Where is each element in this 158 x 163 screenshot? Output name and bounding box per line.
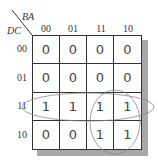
row-header: 01 bbox=[14, 72, 30, 83]
kmap-cell: 0 bbox=[60, 36, 87, 64]
kmap-cell: 1 bbox=[114, 93, 141, 121]
kmap-cell: 0 bbox=[87, 64, 114, 92]
kmap-cell: 1 bbox=[114, 121, 141, 149]
row-header: 11 bbox=[14, 100, 30, 111]
col-variable-label: BA bbox=[22, 11, 34, 22]
col-header: 00 bbox=[32, 23, 60, 34]
kmap-cell: 1 bbox=[87, 93, 114, 121]
col-header: 11 bbox=[87, 23, 115, 34]
kmap-cell: 0 bbox=[114, 64, 141, 92]
kmap-cell: 0 bbox=[33, 36, 60, 64]
kmap-cell: 1 bbox=[87, 121, 114, 149]
kmap-cell: 0 bbox=[114, 36, 141, 64]
row-header: 00 bbox=[14, 43, 30, 54]
kmap-cell: 0 bbox=[87, 36, 114, 64]
kmap-cell: 1 bbox=[60, 93, 87, 121]
kmap-cell: 1 bbox=[33, 93, 60, 121]
kmap-cell: 0 bbox=[33, 121, 60, 149]
kmap-grid: 0 0 0 0 0 0 0 0 1 1 1 1 0 0 1 1 bbox=[32, 35, 142, 150]
row-header: 10 bbox=[14, 129, 30, 140]
col-header: 01 bbox=[59, 23, 87, 34]
kmap-cell: 0 bbox=[33, 64, 60, 92]
col-header: 10 bbox=[114, 23, 142, 34]
row-variable-label: DC bbox=[7, 25, 21, 36]
kmap-cell: 0 bbox=[60, 121, 87, 149]
kmap-cell: 0 bbox=[60, 64, 87, 92]
